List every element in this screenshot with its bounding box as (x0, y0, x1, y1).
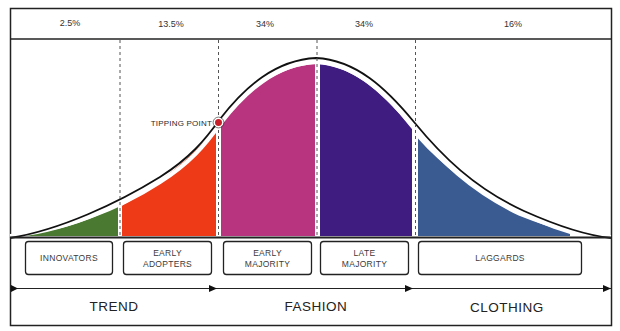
arrow-head-start-icon (11, 285, 18, 292)
percent-early-adopters: 13.5% (158, 19, 184, 29)
category-label-laggards: LAGGARDS (475, 253, 525, 263)
diffusion-of-innovations-diagram: 2.5% 13.5% 34% 34% 16% TIPPING POINT INN… (0, 0, 620, 331)
phase-timeline (10, 285, 611, 292)
category-box-early-adopters: EARLY ADOPTERS (124, 242, 212, 275)
category-label-early-adopters-line1: EARLY (153, 248, 182, 258)
percentage-row: 2.5% 13.5% 34% 34% 16% (60, 18, 522, 29)
percent-innovators: 2.5% (60, 18, 81, 28)
adopter-category-boxes: INNOVATORS EARLY ADOPTERS EARLY MAJORITY… (26, 242, 582, 275)
arrow-head-trend-icon (209, 285, 217, 292)
segment-fill-late-majority (318, 64, 412, 236)
segment-fill-early-majority (214, 64, 316, 236)
phase-label-fashion: FASHION (285, 299, 348, 314)
tipping-point-label: TIPPING POINT (151, 119, 212, 128)
arrow-head-fashion-icon (405, 285, 413, 292)
percent-laggards: 16% (504, 19, 522, 29)
category-box-early-majority: EARLY MAJORITY (224, 242, 312, 275)
category-label-early-majority-line2: MAJORITY (245, 259, 290, 269)
arrow-head-clothing-icon (603, 285, 611, 292)
category-box-late-majority: LATE MAJORITY (321, 242, 409, 275)
category-box-innovators: INNOVATORS (26, 242, 113, 275)
percent-early-majority: 34% (256, 19, 274, 29)
category-box-laggards: LAGGARDS (419, 242, 582, 275)
phase-label-trend: TREND (90, 299, 139, 314)
category-label-early-majority-line1: EARLY (253, 248, 282, 258)
category-label-innovators: INNOVATORS (40, 253, 98, 263)
category-label-late-majority-line2: MAJORITY (342, 259, 387, 269)
tipping-point-marker-icon (214, 118, 223, 127)
percent-late-majority: 34% (355, 19, 373, 29)
phase-labels: TREND FASHION CLOTHING (90, 299, 544, 315)
category-label-early-adopters-line2: ADOPTERS (143, 259, 192, 269)
phase-label-clothing: CLOTHING (470, 300, 544, 315)
category-label-late-majority-line1: LATE (354, 248, 376, 258)
tipping-point-annotation: TIPPING POINT (151, 117, 224, 128)
